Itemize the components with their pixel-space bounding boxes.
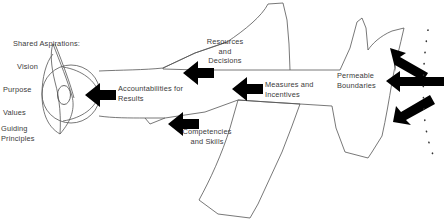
head-eye-ellipse bbox=[58, 86, 71, 105]
dotted-arc bbox=[423, 30, 434, 157]
head-label-values: Values bbox=[3, 108, 26, 118]
diagram-canvas: Shared Aspirations: Vision Purpose Value… bbox=[0, 0, 444, 221]
resources-label: Resources and Decisions bbox=[196, 37, 254, 66]
tail-lower-lobe bbox=[332, 106, 382, 158]
head-label-vision: Vision bbox=[17, 62, 38, 72]
measures-arrow bbox=[232, 77, 263, 101]
measures-label: Measures and Incentives bbox=[265, 80, 314, 99]
permeable-boundaries-arrows bbox=[386, 48, 444, 125]
competencies-label: Competencies and Skills bbox=[178, 127, 236, 146]
whale-diagram-graphic bbox=[0, 0, 444, 221]
accountabilities-arrow bbox=[85, 83, 116, 107]
head-lens-edge bbox=[55, 44, 74, 98]
accountabilities-label: Accountabilities for Results bbox=[118, 84, 183, 103]
head-lens-shape bbox=[51, 44, 73, 134]
lower-flipper-notch bbox=[145, 118, 165, 124]
head-label-purpose: Purpose bbox=[3, 85, 32, 95]
shared-aspirations-heading: Shared Aspirations: bbox=[13, 39, 80, 49]
permeable-boundaries-label: Permeable Boundaries bbox=[337, 71, 376, 90]
head-label-guiding-principles: Guiding Principles bbox=[1, 124, 35, 143]
ventral-fin bbox=[199, 100, 300, 218]
